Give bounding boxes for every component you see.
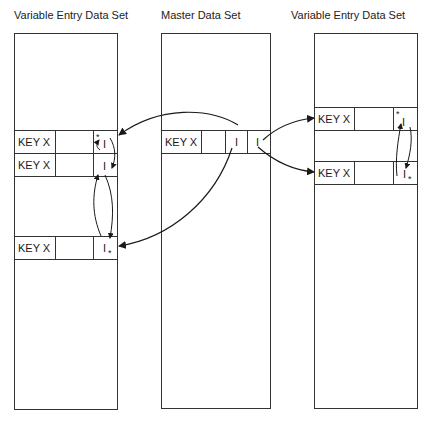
data-cell bbox=[355, 108, 394, 130]
pointer-label: I bbox=[235, 131, 238, 153]
pointer-label: I bbox=[103, 155, 106, 177]
key-cell: KEY X bbox=[315, 108, 355, 130]
key-cell: KEY X bbox=[162, 131, 202, 153]
data-cell bbox=[56, 131, 94, 153]
chain-end-marker: * bbox=[96, 133, 100, 142]
data-cell bbox=[56, 237, 94, 259]
key-cell: KEY X bbox=[15, 237, 56, 259]
chain-end-marker: * bbox=[408, 175, 412, 184]
chain-end-marker: * bbox=[108, 249, 112, 258]
pointer-cell: I * bbox=[94, 237, 117, 259]
right-variable-entry-dataset bbox=[314, 33, 418, 409]
key-cell: KEY X bbox=[15, 131, 56, 153]
pointer-label: I bbox=[256, 131, 259, 153]
pointer-cell-1: I bbox=[226, 131, 248, 153]
left-dataset-title: Variable Entry Data Set bbox=[14, 9, 128, 21]
data-cell bbox=[355, 162, 394, 184]
master-dataset-title: Master Data Set bbox=[161, 9, 240, 21]
pointer-cell: I * bbox=[394, 162, 417, 184]
master-dataset bbox=[161, 33, 271, 409]
left-record-3: KEY X I * bbox=[14, 236, 118, 260]
pointer-label: I bbox=[103, 133, 106, 155]
left-record-2: KEY X I bbox=[14, 153, 118, 177]
pointer-label: I bbox=[103, 237, 106, 259]
master-record: KEY X I I bbox=[161, 130, 271, 154]
pointer-cell: * I bbox=[94, 131, 117, 153]
data-cell bbox=[202, 131, 226, 153]
key-cell: KEY X bbox=[15, 154, 56, 176]
right-dataset-title: Variable Entry Data Set bbox=[291, 9, 405, 21]
pointer-cell-2: I bbox=[248, 131, 270, 153]
pointer-cell: * I bbox=[394, 108, 417, 130]
left-record-1: KEY X * I bbox=[14, 130, 118, 154]
data-cell bbox=[56, 154, 94, 176]
right-record-1: KEY X * I bbox=[314, 107, 418, 131]
pointer-cell: I bbox=[94, 154, 117, 176]
pointer-label: I bbox=[402, 111, 405, 133]
chain-end-marker: * bbox=[396, 110, 400, 119]
key-cell: KEY X bbox=[315, 162, 355, 184]
pointer-label: I bbox=[403, 163, 406, 185]
right-record-2: KEY X I * bbox=[314, 161, 418, 185]
left-variable-entry-dataset bbox=[14, 33, 118, 410]
